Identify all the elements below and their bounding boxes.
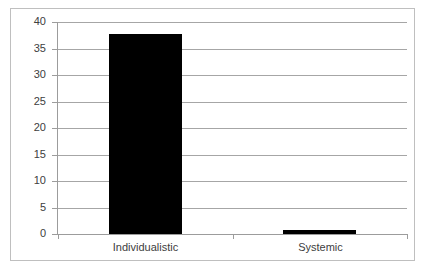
x-axis-tick xyxy=(233,234,234,239)
y-axis-tick-label: 10 xyxy=(6,175,46,186)
y-axis-tick-label: 0 xyxy=(6,228,46,239)
x-axis-tick xyxy=(407,234,408,239)
x-axis-tick xyxy=(58,234,59,239)
y-axis-tick-label: 35 xyxy=(6,43,46,54)
bar-chart: 0510152025303540 IndividualisticSystemic xyxy=(0,0,427,276)
gridline xyxy=(58,22,407,23)
chart-border-frame xyxy=(10,8,415,261)
y-axis-tick-label: 15 xyxy=(6,149,46,160)
x-axis-category-label: Systemic xyxy=(233,241,408,254)
x-axis-category-label: Individualistic xyxy=(58,241,233,254)
y-axis-tick-label: 5 xyxy=(6,202,46,213)
y-axis-tick-label: 25 xyxy=(6,96,46,107)
y-axis-tick-label: 40 xyxy=(6,16,46,27)
bar-systemic xyxy=(283,230,356,234)
y-axis-tick-label: 20 xyxy=(6,122,46,133)
bar-individualistic xyxy=(109,34,182,234)
y-axis-line xyxy=(57,22,58,235)
y-axis-tick-label: 30 xyxy=(6,69,46,80)
